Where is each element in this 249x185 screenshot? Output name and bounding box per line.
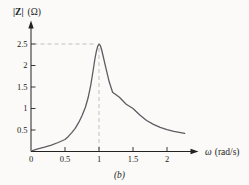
y-tick-label: 2.5 <box>17 39 28 49</box>
y-axis-label-unit: (Ω) <box>28 7 41 18</box>
x-axis-label: ω(rad/s) <box>205 147 240 158</box>
x-axis <box>31 149 199 154</box>
x-tick-label: 0 <box>29 154 33 164</box>
x-axis-label-unit: (rad/s) <box>215 147 240 158</box>
y-tick-label: 2 <box>23 60 27 70</box>
impedance-figure: 0.511.522.5 00.511.52 |Z|(Ω) ω(rad/s) (b… <box>0 0 249 185</box>
y-axis-ticks: 0.511.522.5 <box>17 39 36 135</box>
x-tick-label: 1.5 <box>128 154 139 164</box>
y-tick-label: 0.5 <box>17 125 28 135</box>
x-tick-label: 0.5 <box>60 154 71 164</box>
x-axis-arrow-icon <box>191 149 199 154</box>
y-tick-label: 1.5 <box>17 82 28 92</box>
x-tick-label: 1 <box>97 154 101 164</box>
x-axis-ticks: 00.511.52 <box>29 147 169 164</box>
y-axis-label-symbol: |Z| <box>13 7 24 17</box>
impedance-plot-svg: 0.511.522.5 00.511.52 |Z|(Ω) ω(rad/s) (b… <box>0 0 249 185</box>
y-axis-arrow-icon <box>28 21 33 29</box>
guide-lines <box>34 44 100 150</box>
y-axis-label: |Z|(Ω) <box>13 7 41 18</box>
y-axis <box>28 21 33 152</box>
figure-caption: (b) <box>114 170 125 181</box>
x-axis-label-symbol: ω <box>205 147 212 157</box>
y-tick-label: 1 <box>23 103 27 113</box>
impedance-curve <box>32 44 184 151</box>
x-tick-label: 2 <box>165 154 169 164</box>
